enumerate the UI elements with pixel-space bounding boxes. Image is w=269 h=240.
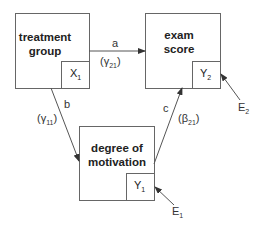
e2-arrow [221,74,240,100]
e2-label: E2 [238,101,249,115]
motivation-title: degree of motivation [84,141,150,169]
x1-label: X1 [70,67,81,81]
e1-arrow [155,187,174,205]
path-c-coef: (β21) [178,112,199,126]
path-c-label: c [163,102,169,114]
exam-title: exam score [150,28,208,56]
e1-label: E1 [172,205,183,219]
path-a-coef: (γ21) [100,55,121,69]
path-a-label: a [112,37,118,49]
y1-label: Y1 [134,179,145,193]
path-b-label: b [64,98,70,110]
y2-label: Y2 [200,67,211,81]
treatment-title: treatment group [15,30,75,58]
path-b-coef: (γ11) [37,112,57,126]
